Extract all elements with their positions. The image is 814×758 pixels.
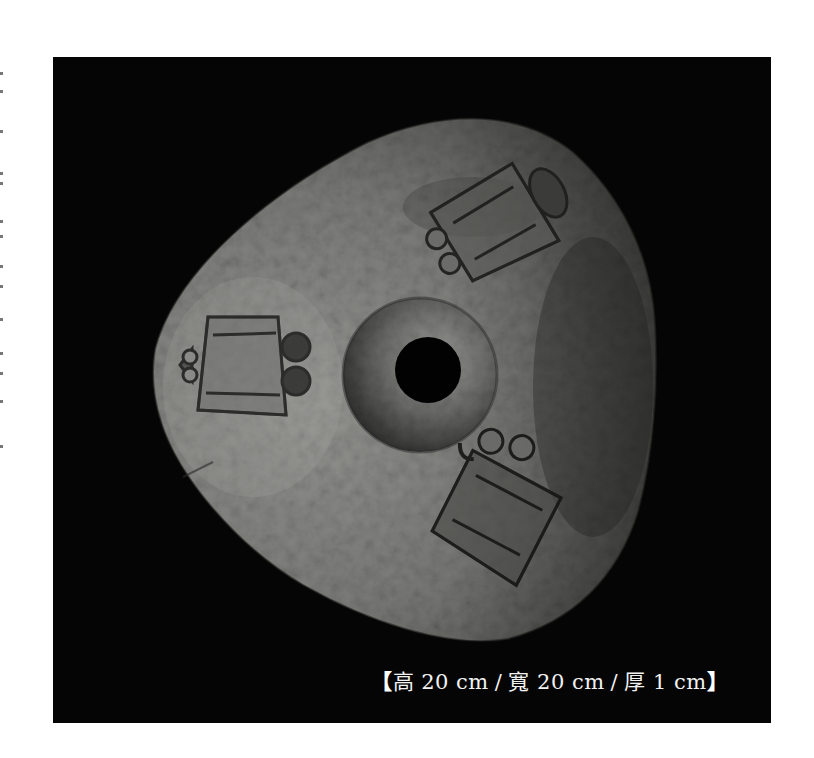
cropped-edge-text-fragments — [0, 60, 6, 460]
artifact-photo: 【高 20 cm/寬 20 cm/厚 1 cm】 — [53, 57, 771, 723]
perforation-hole-icon — [343, 298, 497, 452]
caption-close-bracket: 】 — [707, 669, 729, 694]
width-label: 寬 — [508, 670, 530, 694]
dimensions-caption: 【高 20 cm/寬 20 cm/厚 1 cm】 — [371, 667, 728, 697]
thickness-label: 厚 — [624, 670, 646, 694]
stone-disc-illustration — [53, 57, 771, 723]
width-value: 20 cm — [537, 670, 605, 694]
height-value: 20 cm — [421, 670, 489, 694]
caption-open-bracket: 【 — [371, 669, 393, 694]
height-label: 高 — [393, 670, 415, 694]
separator: / — [611, 670, 619, 694]
thickness-value: 1 cm — [653, 670, 707, 694]
separator: / — [495, 670, 503, 694]
